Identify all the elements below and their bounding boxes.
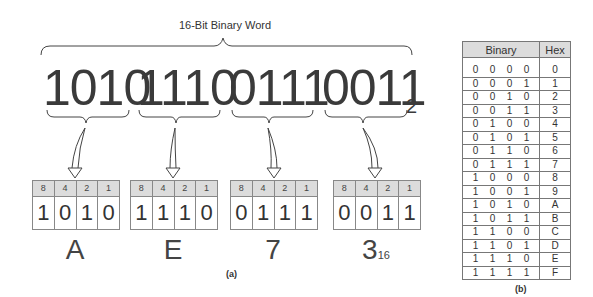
bit: 0 <box>231 197 253 229</box>
bit: 1 <box>378 197 400 229</box>
hex-cell: D <box>540 239 571 253</box>
table-row: 01004 <box>463 118 571 132</box>
bit: 0 <box>484 91 501 103</box>
binary-header: Binary <box>463 42 540 58</box>
table-row: 10019 <box>463 185 571 199</box>
bit: 1 <box>131 197 153 229</box>
bit: 0 <box>518 91 535 103</box>
caption-a: (a) <box>226 269 237 279</box>
bit: 0 <box>467 64 484 76</box>
bit: 0 <box>501 172 518 184</box>
binary-cell: 0101 <box>463 131 540 145</box>
hex-cell: 5 <box>540 131 571 145</box>
hex-digit-4: 3 <box>362 234 378 265</box>
bit: 0 <box>518 64 535 76</box>
binary-cell: 1001 <box>463 185 540 199</box>
bit: 1 <box>501 145 518 157</box>
bit: 1 <box>484 118 501 130</box>
bit: 0 <box>467 132 484 144</box>
bit: 1 <box>518 132 535 144</box>
binary-cell: 0110 <box>463 145 540 159</box>
bit: 1 <box>518 267 535 279</box>
bit: 1 <box>501 267 518 279</box>
weight: 8 <box>231 181 253 196</box>
bit: 1 <box>501 213 518 225</box>
hex-cell: C <box>540 226 571 240</box>
weight: 8 <box>33 181 55 196</box>
weight: 1 <box>399 181 420 196</box>
bit: 1 <box>253 197 275 229</box>
bit: 0 <box>518 253 535 265</box>
hex-base-subscript: 16 <box>378 249 390 261</box>
weight: 1 <box>196 181 217 196</box>
table-row: 1010A <box>463 199 571 213</box>
bit: 1 <box>518 78 535 90</box>
binary-group-3: 0111 <box>229 58 329 118</box>
hex-header: Hex <box>540 42 571 58</box>
nibble-box-2: 8421 1110 <box>130 180 218 230</box>
bit: 0 <box>334 197 356 229</box>
binary-hex-table: Binary Hex 00000000110010200113010040101… <box>462 41 571 280</box>
binary-cell: 0001 <box>463 77 540 91</box>
bit: 1 <box>501 105 518 117</box>
bit: 0 <box>518 145 535 157</box>
bit: 1 <box>467 267 484 279</box>
weight: 2 <box>175 181 197 196</box>
hex-cell: 9 <box>540 185 571 199</box>
bit: 0 <box>501 132 518 144</box>
table-row: 1011B <box>463 212 571 226</box>
bit: 0 <box>501 118 518 130</box>
bit: 1 <box>467 186 484 198</box>
bit: 1 <box>518 159 535 171</box>
table-row: 00011 <box>463 77 571 91</box>
bit: 0 <box>518 226 535 238</box>
binary-cell: 1100 <box>463 226 540 240</box>
bit: 0 <box>484 186 501 198</box>
bit: 1 <box>467 253 484 265</box>
bit: 0 <box>467 159 484 171</box>
bit: 1 <box>275 197 297 229</box>
bit: 0 <box>501 78 518 90</box>
weight: 2 <box>378 181 400 196</box>
bit: 1 <box>484 240 501 252</box>
bit: 1 <box>467 199 484 211</box>
bit: 1 <box>484 253 501 265</box>
bit: 1 <box>518 186 535 198</box>
bit: 1 <box>296 197 317 229</box>
bit: 1 <box>501 159 518 171</box>
hex-cell: 8 <box>540 172 571 186</box>
hex-cell: 7 <box>540 158 571 172</box>
bit: 0 <box>518 199 535 211</box>
table-row: 01015 <box>463 131 571 145</box>
hex-cell: 1 <box>540 77 571 91</box>
bit: 0 <box>518 118 535 130</box>
table-row: 00000 <box>463 58 571 78</box>
bit: 1 <box>467 213 484 225</box>
binary-base-subscript: 2 <box>406 95 417 118</box>
table-row: 10008 <box>463 172 571 186</box>
bit: 0 <box>467 105 484 117</box>
bit: 1 <box>484 159 501 171</box>
bit: 1 <box>484 145 501 157</box>
hex-cell: A <box>540 199 571 213</box>
weight: 2 <box>77 181 99 196</box>
bit: 0 <box>501 240 518 252</box>
table-row: 1111F <box>463 266 571 280</box>
hex-cell: 3 <box>540 104 571 118</box>
hex-cell: F <box>540 266 571 280</box>
hex-digit-2: E <box>130 234 216 266</box>
bit: 1 <box>518 213 535 225</box>
bit: 0 <box>98 197 119 229</box>
table-row: 00113 <box>463 104 571 118</box>
binary-cell: 1110 <box>463 253 540 267</box>
hex-cell: 6 <box>540 145 571 159</box>
table-row: 00102 <box>463 91 571 105</box>
nibble-box-3: 8421 0111 <box>230 180 318 230</box>
bit: 0 <box>518 172 535 184</box>
weight: 4 <box>55 181 77 196</box>
binary-cell: 0011 <box>463 104 540 118</box>
bit: 1 <box>467 226 484 238</box>
bit: 0 <box>484 213 501 225</box>
hex-cell: 4 <box>540 118 571 132</box>
bit: 1 <box>399 197 420 229</box>
